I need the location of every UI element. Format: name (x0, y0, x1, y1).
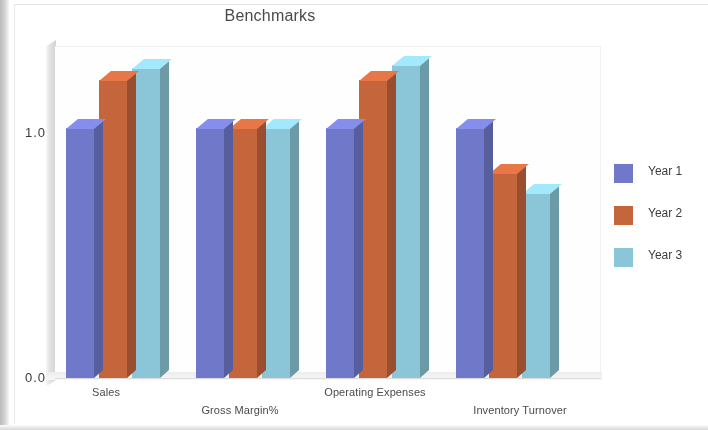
x-axis-label-inventory-turnover: Inventory Turnover (430, 404, 610, 416)
bar-front-face (196, 128, 224, 378)
x-axis-label-gross-margin-: Gross Margin% (150, 404, 330, 416)
bar-operating-expenses-year-3[interactable] (392, 65, 420, 378)
bar-side-face (484, 120, 493, 378)
bar-front-face (456, 128, 484, 378)
bar-side-face (550, 185, 559, 378)
bar-inventory-turnover-year-3[interactable] (522, 193, 550, 378)
bar-front-face (262, 128, 290, 378)
bar-front-face (522, 193, 550, 378)
plot-baseline (55, 378, 601, 379)
bar-front-face (359, 80, 387, 378)
bar-sales-year-3[interactable] (132, 68, 160, 378)
bar-side-face (127, 72, 136, 378)
bar-gross-margin--year-3[interactable] (262, 128, 290, 378)
bar-front-face (392, 65, 420, 378)
bar-side-face (160, 60, 169, 378)
legend-label: Year 1 (648, 164, 682, 178)
legend-swatch-icon (614, 164, 633, 183)
bar-side-face (517, 165, 526, 378)
bar-operating-expenses-year-1[interactable] (326, 128, 354, 378)
bar-inventory-turnover-year-1[interactable] (456, 128, 484, 378)
bar-side-face (224, 120, 233, 378)
bar-sales-year-2[interactable] (99, 80, 127, 378)
legend-label: Year 3 (648, 248, 682, 262)
y-axis-tick-top: 1.0 (2, 125, 46, 140)
legend-label: Year 2 (648, 206, 682, 220)
bar-inventory-turnover-year-2[interactable] (489, 173, 517, 378)
bar-side-face (387, 72, 396, 378)
bar-front-face (132, 68, 160, 378)
bar-sales-year-1[interactable] (66, 128, 94, 378)
bar-front-face (489, 173, 517, 378)
legend-swatch-icon (614, 248, 633, 267)
chart-title: Benchmarks (0, 7, 540, 25)
bar-front-face (99, 80, 127, 378)
bar-side-face (290, 120, 299, 378)
bar-front-face (229, 128, 257, 378)
y-axis-tick-bottom: 0.0 (2, 370, 46, 385)
bar-operating-expenses-year-2[interactable] (359, 80, 387, 378)
bar-gross-margin--year-2[interactable] (229, 128, 257, 378)
x-axis-label-sales: Sales (16, 386, 196, 398)
bar-front-face (66, 128, 94, 378)
bar-side-face (257, 120, 266, 378)
legend-swatch-icon (614, 206, 633, 225)
bar-side-face (354, 120, 363, 378)
benchmarks-bar-chart: Benchmarks 1.0 0.0 SalesGross Margin%Ope… (0, 0, 708, 430)
bar-front-face (326, 128, 354, 378)
bar-side-face (94, 120, 103, 378)
bar-side-face (420, 57, 429, 378)
x-axis-label-operating-expenses: Operating Expenses (285, 386, 465, 398)
bar-gross-margin--year-1[interactable] (196, 128, 224, 378)
